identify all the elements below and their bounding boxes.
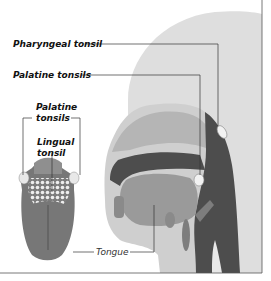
label-palatine-line1: Palatine	[36, 102, 70, 112]
label-pharyngeal-tonsil: Pharyngeal tonsil	[13, 39, 102, 49]
label-palatine-tonsils: Palatine tonsils	[13, 70, 91, 80]
label-palatine-line2: tonsils	[36, 113, 70, 123]
tonsils-diagram: Pharyngeal tonsil Palatine tonsils Palat…	[0, 0, 271, 281]
label-lingual-line1: Lingual	[37, 137, 74, 147]
label-lingual-line2: tonsil	[37, 148, 65, 158]
label-tongue: Tongue	[96, 247, 129, 257]
tongue-front-view	[19, 158, 79, 261]
palatine-tonsil-side	[194, 174, 204, 186]
